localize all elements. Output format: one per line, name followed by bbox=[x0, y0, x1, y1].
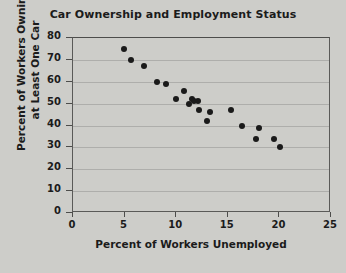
y-tick: 10 bbox=[0, 190, 72, 191]
x-tick-mark bbox=[124, 212, 125, 217]
data-point bbox=[128, 57, 134, 63]
data-point bbox=[256, 125, 262, 131]
x-tick-label: 15 bbox=[215, 219, 239, 230]
data-point bbox=[271, 136, 277, 142]
y-tick-label: 10 bbox=[47, 183, 61, 195]
scatter-plot-figure: Car Ownership and Employment Status Perc… bbox=[0, 0, 346, 273]
data-point bbox=[277, 144, 283, 150]
x-tick: 10 bbox=[175, 212, 176, 236]
x-tick: 25 bbox=[330, 212, 331, 236]
plot-area bbox=[72, 37, 330, 212]
y-tick-label: 20 bbox=[47, 161, 61, 173]
y-tick-label: 60 bbox=[47, 74, 61, 86]
x-tick-mark bbox=[175, 212, 176, 217]
x-tick: 20 bbox=[278, 212, 279, 236]
y-axis-ticks: 01020304050607080 bbox=[0, 37, 72, 212]
x-tick-label: 0 bbox=[60, 219, 84, 230]
gridline bbox=[73, 169, 329, 170]
gridline bbox=[73, 60, 329, 61]
x-tick: 0 bbox=[72, 212, 73, 236]
x-tick-label: 10 bbox=[163, 219, 187, 230]
x-axis-ticks: 0510152025 bbox=[72, 212, 330, 238]
data-point bbox=[163, 81, 169, 87]
y-tick-label: 30 bbox=[47, 139, 61, 151]
y-tick: 50 bbox=[0, 103, 72, 104]
y-tick: 0 bbox=[0, 212, 72, 213]
x-tick-label: 25 bbox=[318, 219, 342, 230]
data-point bbox=[173, 96, 179, 102]
y-tick-label: 0 bbox=[54, 205, 61, 217]
y-tick-label: 70 bbox=[47, 52, 61, 64]
x-axis-label: Percent of Workers Unemployed bbox=[52, 238, 330, 250]
y-tick-label: 40 bbox=[47, 118, 61, 130]
x-tick-mark bbox=[330, 212, 331, 217]
data-point bbox=[207, 109, 213, 115]
x-tick-label: 20 bbox=[266, 219, 290, 230]
data-point bbox=[196, 107, 202, 113]
gridline bbox=[73, 82, 329, 83]
data-point bbox=[141, 63, 147, 69]
data-point bbox=[154, 79, 160, 85]
y-tick-label: 80 bbox=[47, 30, 61, 42]
data-point bbox=[253, 136, 259, 142]
x-tick: 15 bbox=[227, 212, 228, 236]
data-point bbox=[181, 88, 187, 94]
x-tick-label: 5 bbox=[112, 219, 136, 230]
y-tick: 40 bbox=[0, 125, 72, 126]
x-tick-mark bbox=[278, 212, 279, 217]
gridline bbox=[73, 104, 329, 105]
gridline bbox=[73, 191, 329, 192]
x-tick-mark bbox=[227, 212, 228, 217]
data-point bbox=[121, 46, 127, 52]
y-tick: 60 bbox=[0, 81, 72, 82]
x-tick-mark bbox=[72, 212, 73, 217]
data-point bbox=[228, 107, 234, 113]
y-tick: 70 bbox=[0, 59, 72, 60]
data-point bbox=[204, 118, 210, 124]
y-tick-label: 50 bbox=[47, 96, 61, 108]
chart-title: Car Ownership and Employment Status bbox=[0, 8, 346, 21]
gridline bbox=[73, 126, 329, 127]
y-tick: 80 bbox=[0, 37, 72, 38]
data-point bbox=[239, 123, 245, 129]
gridline bbox=[73, 147, 329, 148]
y-tick: 30 bbox=[0, 146, 72, 147]
y-tick: 20 bbox=[0, 168, 72, 169]
x-tick: 5 bbox=[124, 212, 125, 236]
